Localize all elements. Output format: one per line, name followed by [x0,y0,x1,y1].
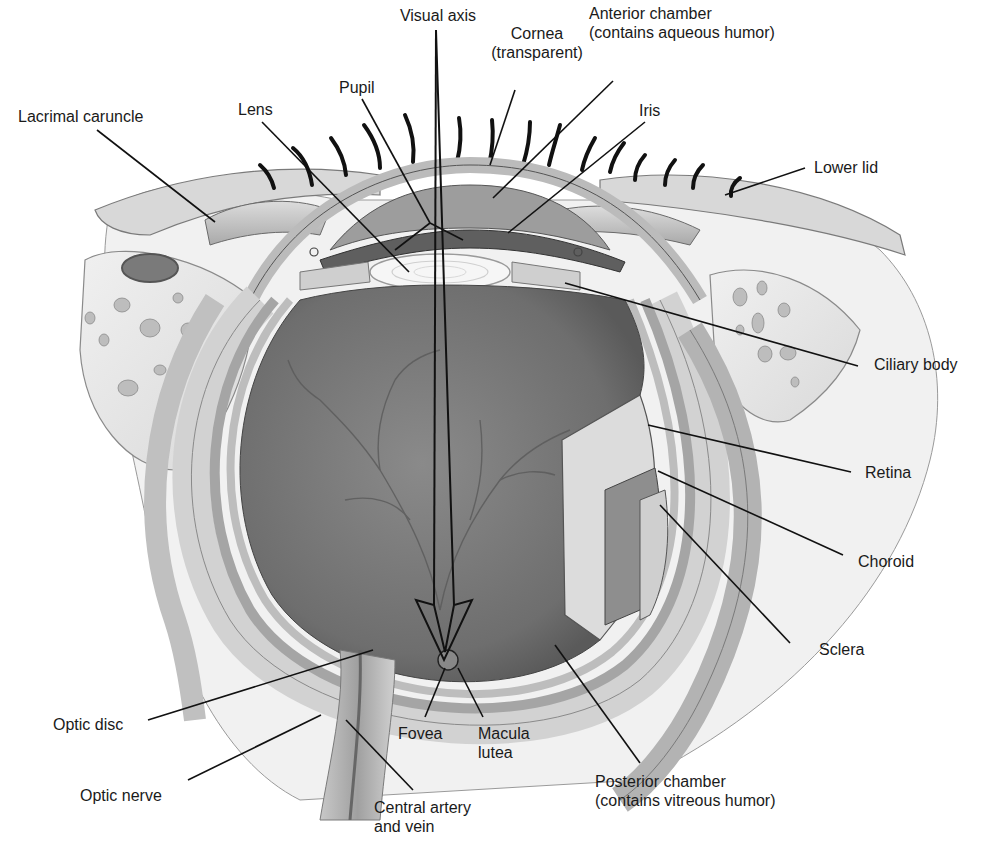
label-macula-lutea: Macula lutea [478,724,530,762]
label-visual-axis: Visual axis [368,6,508,25]
eye-anatomy-diagram: Visual axis Cornea (transparent) Anterio… [0,0,991,844]
label-retina: Retina [865,463,911,482]
label-anterior-chamber: Anterior chamber (contains aqueous humor… [589,4,775,42]
label-fovea: Fovea [398,724,442,743]
label-sclera: Sclera [819,640,864,659]
label-optic-disc: Optic disc [53,715,123,734]
label-central-artery-and-vein: Central artery and vein [374,798,471,836]
label-iris: Iris [639,101,660,120]
label-optic-nerve: Optic nerve [80,786,162,805]
label-lacrimal-caruncle: Lacrimal caruncle [18,107,143,126]
label-lower-lid: Lower lid [814,158,878,177]
label-pupil: Pupil [339,78,375,97]
eye-illustration [0,0,991,844]
label-choroid: Choroid [858,552,914,571]
label-lens: Lens [238,100,273,119]
label-posterior-chamber: Posterior chamber (contains vitreous hum… [595,772,776,810]
label-cornea: Cornea (transparent) [487,24,587,62]
label-ciliary-body: Ciliary body [874,355,958,374]
